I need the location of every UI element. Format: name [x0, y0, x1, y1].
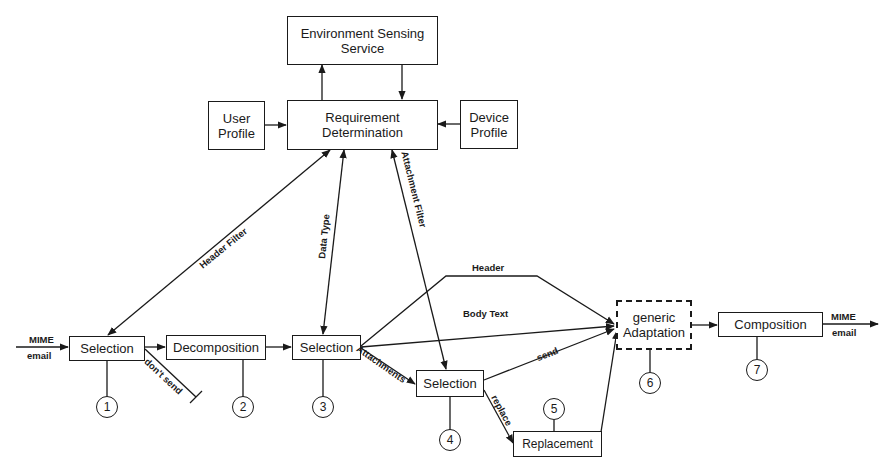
box-label: User: [218, 111, 255, 126]
selection-box-3: Selection: [292, 335, 361, 360]
step-marker-3: 3: [312, 396, 334, 418]
user-profile-box: UserProfile: [208, 101, 265, 150]
body-text-label: Body Text: [463, 308, 508, 319]
box-label: Selection: [423, 376, 476, 391]
step-marker-6: 6: [639, 372, 661, 394]
box-label: Replacement: [522, 437, 593, 452]
step-number: 4: [447, 433, 454, 447]
step-number: 6: [647, 376, 654, 390]
step-marker-4: 4: [439, 429, 461, 451]
box-label: Selection: [80, 341, 133, 356]
diagram-connectors: [0, 0, 891, 472]
decomposition-box: Decomposition: [166, 335, 266, 360]
step-number: 7: [754, 363, 761, 377]
step-marker-2: 2: [232, 396, 254, 418]
step-number: 2: [240, 400, 247, 414]
input-label-mime: MIME: [29, 334, 54, 345]
box-label: Determination: [322, 125, 403, 140]
box-label: Service: [301, 41, 425, 56]
composition-box: Composition: [718, 312, 823, 337]
arrow-attachment-filter: [392, 150, 446, 369]
box-label: Selection: [300, 340, 353, 355]
step-number: 1: [104, 400, 111, 414]
selection-box-4: Selection: [416, 370, 484, 397]
box-label: Adaptation: [623, 325, 685, 340]
device-profile-box: DeviceProfile: [460, 100, 518, 149]
requirement-determination-box: RequirementDetermination: [287, 100, 438, 150]
output-label-mime: MIME: [831, 311, 856, 322]
step-number: 3: [320, 400, 327, 414]
box-label: generic: [623, 310, 685, 325]
generic-adaptation-box: genericAdaptation: [616, 300, 692, 350]
box-label: Composition: [734, 317, 806, 332]
box-label: Environment Sensing: [301, 26, 425, 41]
step-marker-5: 5: [543, 398, 565, 420]
box-label: Decomposition: [173, 340, 259, 355]
output-label-email: email: [832, 327, 856, 338]
selection-box-1: Selection: [69, 336, 145, 361]
step-marker-7: 7: [746, 359, 768, 381]
replacement-box: Replacement: [513, 431, 602, 457]
box-label: Profile: [469, 125, 509, 140]
arrow-replacement-adaptation: [601, 331, 617, 432]
environment-sensing-service-box: Environment SensingService: [287, 16, 438, 65]
box-label: Device: [469, 110, 509, 125]
step-marker-1: 1: [96, 396, 118, 418]
header-path-label: Header: [472, 262, 504, 273]
input-label-email: email: [27, 350, 51, 361]
box-label: Profile: [218, 126, 255, 141]
box-label: Requirement: [322, 110, 403, 125]
step-number: 5: [551, 402, 558, 416]
